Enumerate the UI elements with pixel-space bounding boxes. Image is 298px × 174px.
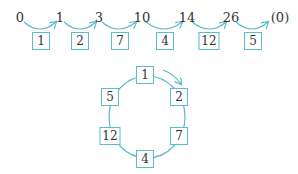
step-arrow-5 — [192, 22, 226, 29]
cycle-box: 7 — [170, 127, 188, 145]
sequence-node: 1 — [56, 11, 64, 24]
step-box: 7 — [111, 32, 129, 50]
cycle-box: 5 — [101, 88, 119, 106]
sequence-node: 0 — [16, 11, 24, 24]
step-box: 12 — [199, 32, 220, 50]
step-box: 2 — [71, 32, 89, 50]
step-arrow-6 — [236, 22, 268, 29]
step-arrow-4 — [146, 22, 182, 29]
step-box: 1 — [32, 32, 50, 50]
cycle-box: 1 — [136, 66, 154, 84]
cycle-box: 2 — [170, 88, 188, 106]
cycle-direction-arrow — [163, 70, 181, 84]
step-arrow-3 — [102, 22, 136, 29]
sequence-node: 3 — [95, 11, 103, 24]
sequence-node: 10 — [134, 11, 151, 24]
step-arrow-1 — [24, 22, 56, 29]
step-box: 5 — [244, 32, 262, 50]
step-arrow-2 — [64, 22, 96, 29]
cycle-box: 12 — [100, 127, 121, 145]
sequence-node: 26 — [223, 11, 240, 24]
sequence-node: 14 — [179, 11, 196, 24]
cycle-box: 4 — [136, 150, 154, 168]
sequence-node: (0) — [271, 11, 289, 24]
step-box: 4 — [156, 32, 174, 50]
arrows-layer — [0, 0, 298, 174]
